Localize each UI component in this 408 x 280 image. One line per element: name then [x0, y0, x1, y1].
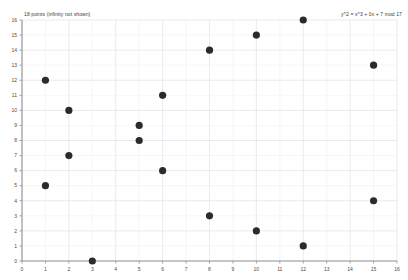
x-axis-tick-label: 12 [300, 266, 306, 272]
x-axis-tick-labels: 012345678910111213141516 [21, 266, 400, 272]
curve-equation-annotation: y^2 = x^3 + 0x + 7 mod 17 [341, 11, 402, 17]
data-point: (12, 16) [300, 16, 307, 23]
y-axis-tick-label: 15 [11, 32, 17, 38]
x-axis-tick-label: 16 [394, 266, 400, 272]
x-axis-tick-label: 6 [161, 266, 164, 272]
x-axis-tick-label: 4 [114, 266, 117, 272]
x-axis-tick-label: 1 [44, 266, 47, 272]
y-axis-tick-label: 14 [11, 47, 17, 53]
y-axis-tick-label: 0 [14, 258, 17, 264]
data-point: (5, 9) [136, 122, 143, 129]
data-point: (3, 0) [89, 257, 96, 264]
data-point: (12, 1) [300, 242, 307, 249]
y-axis-tick-label: 12 [11, 77, 17, 83]
y-axis-tick-labels: 012345678910111213141516 [11, 17, 17, 264]
x-axis-tick-label: 15 [371, 266, 377, 272]
x-axis-tick-label: 0 [21, 266, 24, 272]
x-axis-tick-label: 8 [208, 266, 211, 272]
data-point: (1, 5) [42, 182, 49, 189]
data-point: (2, 7) [65, 152, 72, 159]
x-axis-tick-label: 10 [254, 266, 260, 272]
y-axis-tick-label: 16 [11, 17, 17, 23]
y-axis-tick-label: 4 [14, 198, 17, 204]
x-axis-tick-label: 14 [347, 266, 353, 272]
y-axis-tick-label: 5 [14, 182, 17, 188]
x-axis-tick-label: 13 [324, 266, 330, 272]
data-point: (1, 12) [42, 77, 49, 84]
y-axis-tick-label: 2 [14, 228, 17, 234]
y-axis-tick-label: 3 [14, 213, 17, 219]
x-axis-tick-label: 11 [277, 266, 282, 272]
x-axis-tick-label: 5 [138, 266, 141, 272]
data-point: (15, 13) [370, 62, 377, 69]
x-axis-tick-label: 9 [232, 266, 235, 272]
data-point: (8, 14) [206, 47, 213, 54]
data-point: (10, 15) [253, 31, 260, 38]
data-point: (10, 2) [253, 227, 260, 234]
y-axis-tick-label: 9 [14, 122, 17, 128]
data-point: (6, 6) [159, 167, 166, 174]
axis-layer [20, 20, 398, 264]
y-axis-tick-label: 11 [12, 92, 17, 98]
plot-title-caption: 18 points (infinity not shown) [24, 11, 90, 17]
plot-canvas: 012345678910111213141516 012345678910111… [0, 0, 408, 280]
x-axis-tick-label: 7 [185, 266, 188, 272]
y-axis-tick-label: 8 [14, 137, 17, 143]
y-axis-tick-label: 13 [11, 62, 17, 68]
x-axis-tick-label: 3 [91, 266, 94, 272]
y-axis-tick-label: 10 [11, 107, 17, 113]
x-axis-tick-label: 2 [67, 266, 70, 272]
data-point: (15, 4) [370, 197, 377, 204]
grid-layer [22, 20, 397, 261]
data-point: (8, 3) [206, 212, 213, 219]
data-point: (2, 10) [65, 107, 72, 114]
y-axis-tick-label: 7 [14, 152, 17, 158]
y-axis-tick-label: 6 [14, 167, 17, 173]
scatter-plot-figure: 012345678910111213141516 012345678910111… [0, 0, 408, 280]
data-point: (6, 11) [159, 92, 166, 99]
data-point: (5, 8) [136, 137, 143, 144]
y-axis-tick-label: 1 [14, 243, 17, 249]
